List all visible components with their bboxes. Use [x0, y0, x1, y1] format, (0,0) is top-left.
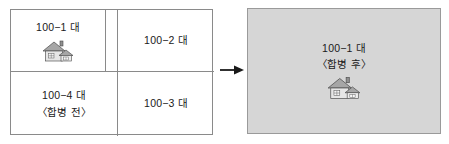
- parcel-cell-100-3: 100−3 대: [118, 72, 214, 136]
- house-icon: [326, 75, 362, 101]
- parcel-cell-100-4: 100−4 대 〈합병 전〉: [11, 72, 118, 136]
- merged-parcel-label: 100−1 대: [322, 41, 366, 57]
- before-merger-table: 100−1 대 10: [10, 9, 213, 135]
- parcel-label: 100−2 대: [144, 33, 188, 48]
- parcel-label: 100−4 대: [42, 88, 86, 103]
- before-merger-caption: 〈합병 전〉: [37, 105, 91, 120]
- parcel-label: 100−1 대: [36, 20, 80, 35]
- parcel-label: 100−3 대: [144, 96, 188, 111]
- after-merger-panel: 100−1 대 〈합병 후〉: [247, 8, 441, 134]
- house-icon: [41, 39, 75, 63]
- parcel-cell-100-2: 100−2 대: [118, 10, 214, 72]
- arrow-right-icon: [219, 63, 245, 77]
- diagram-canvas: 100−1 대 10: [0, 0, 449, 144]
- parcel-cell-100-1-before: 100−1 대: [11, 10, 106, 72]
- after-merger-caption: 〈합병 후〉: [317, 57, 371, 73]
- table-separator-column: [106, 10, 118, 72]
